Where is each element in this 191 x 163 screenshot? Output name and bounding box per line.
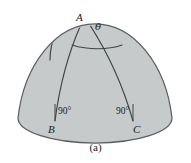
vertex-label-a: A (76, 12, 83, 23)
figure-caption: (a) (0, 142, 191, 153)
dome-surface (18, 24, 172, 143)
figure-container: A θ 90° 90° B C (a) (0, 0, 191, 163)
apex-angle-label-theta: θ (95, 22, 101, 32)
vertex-label-b: B (48, 124, 55, 135)
angle-label-at-b: 90° (58, 107, 71, 117)
angle-label-at-c: 90° (116, 107, 129, 117)
hemisphere-body (18, 24, 172, 143)
vertex-label-c: C (133, 124, 140, 135)
